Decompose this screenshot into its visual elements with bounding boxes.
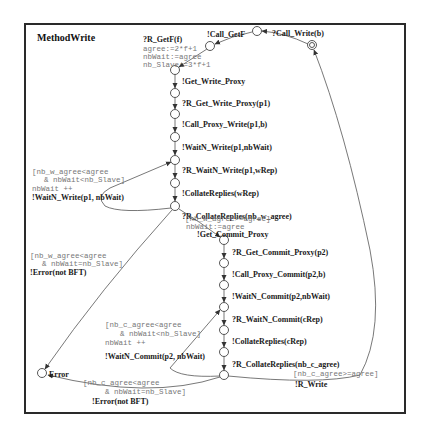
label-write-step-4: !WaitN_Write(p1,nbWait) [182,143,272,152]
state-node [206,42,215,51]
assign-nbslave: nb_Slave:=3*f+1 [143,61,211,69]
write-error-action: !Error(not BFT) [30,268,87,277]
label-call-write: ?Call_Write(b) [272,29,324,38]
label-commit-step-5: !CollateReplies(cRep) [232,337,307,346]
commit-loop-guard-2: & nbWait<nb_Slave] [120,330,201,338]
commit-loop-guard-1: [nb_c_agree<agree [105,321,182,329]
commit-loop-action: !WaitN_Commit(p2, nbWait) [105,352,205,361]
initial-state [308,41,317,50]
state-node [220,326,229,335]
state-node [220,348,229,357]
state-node [171,110,180,119]
label-commit-step-3: !WaitN_Commit(p2,nbWait) [232,292,330,301]
state-machine-diagram: MethodWrite [0,0,422,433]
commit-error-guard-1: [nb_c_agree<agree [83,379,160,387]
write-error-guard-1: [nb_w_agree<agree [30,252,107,260]
label-commit-step-2: !Call_Proxy_Commit(p2,b) [232,270,326,279]
label-write-step-2: ?R_Get_Write_Proxy(p1) [182,99,270,108]
label-commit-step-6: ?R_CollateReplies(nb_c_agree) [232,360,340,369]
write-ok-action: !Get_Commit_Proxy [197,230,268,239]
commit-ok-guard: [nb_c_agree>=agree] [293,370,379,378]
label-r-getf: ?R_GetF(f) [143,35,182,44]
state-node [171,179,180,188]
write-ok-guard: [nb_w_agree>=agree] [185,215,271,223]
label-write-step-5: ?R_WaitN_Write(p1,wRep) [182,166,278,175]
write-loop-update: nbWait ++ [32,185,73,193]
state-node [220,303,229,312]
label-commit-step-1: ?R_Get_Commit_Proxy(p2) [232,248,329,257]
state-node [253,27,262,36]
write-loop-action: !WaitN_Write(p1, nbWait) [32,193,124,202]
write-loop-guard-1: [nb_w_agree<agree [32,168,109,176]
write-error-guard-2: & nbWait=nb_Slave] [42,260,123,268]
label-commit-step-4: ?R_WaitN_Commit(cRep) [232,315,323,324]
label-call-getf: !Call_GetF [207,30,245,39]
error-state-node [38,369,47,378]
state-node [171,133,180,142]
assign-nbwait: nbWait:=agree [143,53,202,61]
label-write-step-1: !Get_Write_Proxy [182,77,245,86]
label-write-step-3: !Call_Proxy_Write(p1,b) [182,120,268,129]
label-write-step-6: !CollateReplies(wRep) [182,189,259,198]
commit-error-guard-2: & nbWait=nb_Slave] [105,388,186,396]
commit-error-action: !Error(not BFT) [92,397,149,406]
junction-node-commit [220,371,229,380]
commit-loop-update: nbWait ++ [105,339,146,347]
diagram-title: MethodWrite [37,32,96,43]
state-node [220,259,229,268]
junction-node-write [171,202,180,211]
state-node [171,156,180,165]
state-node [171,89,180,98]
assign-agree: agree:=2*f+1 [143,45,198,53]
write-loop-guard-2: & nbWait<nb_Slave] [44,176,125,184]
commit-ok-action: !R_Write [295,380,328,389]
state-node [220,281,229,290]
error-state-label: Error [49,370,69,379]
